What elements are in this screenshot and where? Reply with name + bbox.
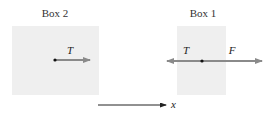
box-2-title: Box 2 — [42, 7, 69, 19]
x-axis-label: x — [170, 98, 176, 110]
box-2-center-point — [53, 58, 56, 61]
box-2: Box 2 T — [12, 7, 99, 95]
box-1-title: Box 1 — [190, 7, 217, 19]
box-2-tension-label: T — [67, 44, 74, 56]
box-1-center-point — [200, 59, 203, 62]
free-body-diagram: Box 2 T Box 1 T F x — [0, 0, 272, 118]
box-1-tension-label: T — [183, 44, 190, 56]
box-1-force-label: F — [228, 44, 236, 56]
x-axis: x — [98, 98, 176, 110]
box-1: Box 1 T F — [167, 7, 262, 95]
